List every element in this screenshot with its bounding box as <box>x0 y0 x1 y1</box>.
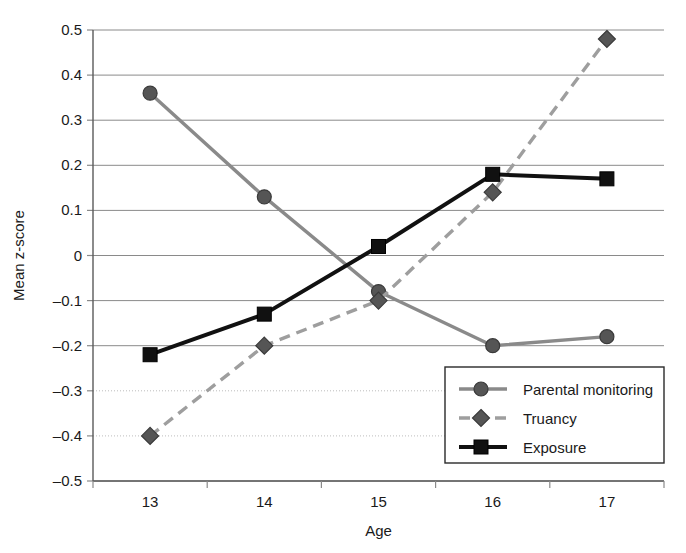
x-tick-label: 15 <box>370 493 387 510</box>
chart-container: 0.50.40.30.20.10–0.1–0.2–0.3–0.4–0.51314… <box>0 0 686 553</box>
legend-marker <box>474 382 488 396</box>
legend-label: Exposure <box>523 439 586 456</box>
y-tick-label: –0.4 <box>53 427 82 444</box>
x-tick-label: 13 <box>142 493 159 510</box>
y-tick-label: 0.1 <box>61 201 82 218</box>
y-tick-label: 0.4 <box>61 66 82 83</box>
y-tick-label: –0.2 <box>53 337 82 354</box>
x-axis-title: Age <box>365 522 392 539</box>
y-tick-label: –0.3 <box>53 382 82 399</box>
legend-marker <box>474 440 488 454</box>
y-axis-title: Mean z-score <box>10 210 27 301</box>
data-point-marker <box>600 172 614 186</box>
y-tick-label: 0 <box>74 247 82 264</box>
legend-label: Truancy <box>523 410 577 427</box>
data-point-marker <box>600 330 614 344</box>
legend-label: Parental monitoring <box>523 381 653 398</box>
x-tick-label: 14 <box>256 493 273 510</box>
series-exposure <box>143 167 614 361</box>
line-chart: 0.50.40.30.20.10–0.1–0.2–0.3–0.4–0.51314… <box>0 0 686 553</box>
data-point-marker <box>257 307 271 321</box>
series-line <box>150 174 607 354</box>
y-tick-label: 0.3 <box>61 111 82 128</box>
data-point-marker <box>143 86 157 100</box>
data-point-marker <box>486 167 500 181</box>
data-point-marker <box>598 31 615 48</box>
data-point-marker <box>372 239 386 253</box>
y-tick-label: –0.1 <box>53 292 82 309</box>
legend: Parental monitoringTruancyExposure <box>445 367 664 463</box>
y-tick-label: 0.2 <box>61 156 82 173</box>
data-point-marker <box>257 190 271 204</box>
y-tick-label: 0.5 <box>61 21 82 38</box>
x-tick-label: 17 <box>599 493 616 510</box>
data-point-marker <box>256 337 273 354</box>
data-point-marker <box>143 348 157 362</box>
x-tick-label: 16 <box>484 493 501 510</box>
data-point-marker <box>486 339 500 353</box>
y-tick-label: –0.5 <box>53 472 82 489</box>
